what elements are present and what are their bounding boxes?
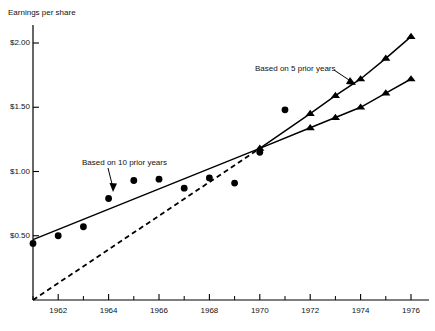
x-tick-label: 1962 [38, 306, 78, 315]
x-tick-label: 1966 [139, 306, 179, 315]
plot-canvas [0, 0, 435, 331]
earnings-per-share-chart: Earnings per share $0.50$1.00$1.50$2.00 … [0, 0, 435, 331]
data-point-marker [105, 195, 112, 202]
series-line [33, 148, 260, 300]
y-tick-label: $1.00 [0, 167, 30, 176]
y-tick-label: $2.00 [0, 38, 30, 47]
y-axis-title: Earnings per share [8, 8, 76, 17]
x-tick-label: 1968 [189, 306, 229, 315]
data-point-marker [356, 103, 365, 109]
y-tick-label: $1.50 [0, 102, 30, 111]
data-point-marker [282, 106, 289, 113]
annotation-arrow-head [110, 183, 118, 192]
data-point-marker [130, 177, 137, 184]
data-point-marker [406, 75, 415, 81]
y-tick-label: $0.50 [0, 231, 30, 240]
x-tick-label: 1972 [290, 306, 330, 315]
chart-annotation-label: Based on 5 prior years [255, 64, 336, 73]
data-point-marker [406, 33, 415, 39]
data-point-marker [80, 223, 87, 230]
data-point-marker [156, 176, 163, 183]
x-tick-label: 1964 [89, 306, 129, 315]
data-point-marker [55, 232, 62, 239]
chart-annotation-label: Based on 10 prior years [82, 158, 167, 167]
data-point-marker [181, 185, 188, 192]
data-point-marker [30, 240, 37, 247]
data-point-marker [381, 89, 390, 95]
x-tick-label: 1974 [341, 306, 381, 315]
annotation-arrow-head [346, 77, 356, 85]
x-tick-label: 1976 [391, 306, 431, 315]
annotation-arrows [108, 70, 356, 192]
x-tick-label: 1970 [240, 306, 280, 315]
data-point-marker [231, 180, 238, 187]
